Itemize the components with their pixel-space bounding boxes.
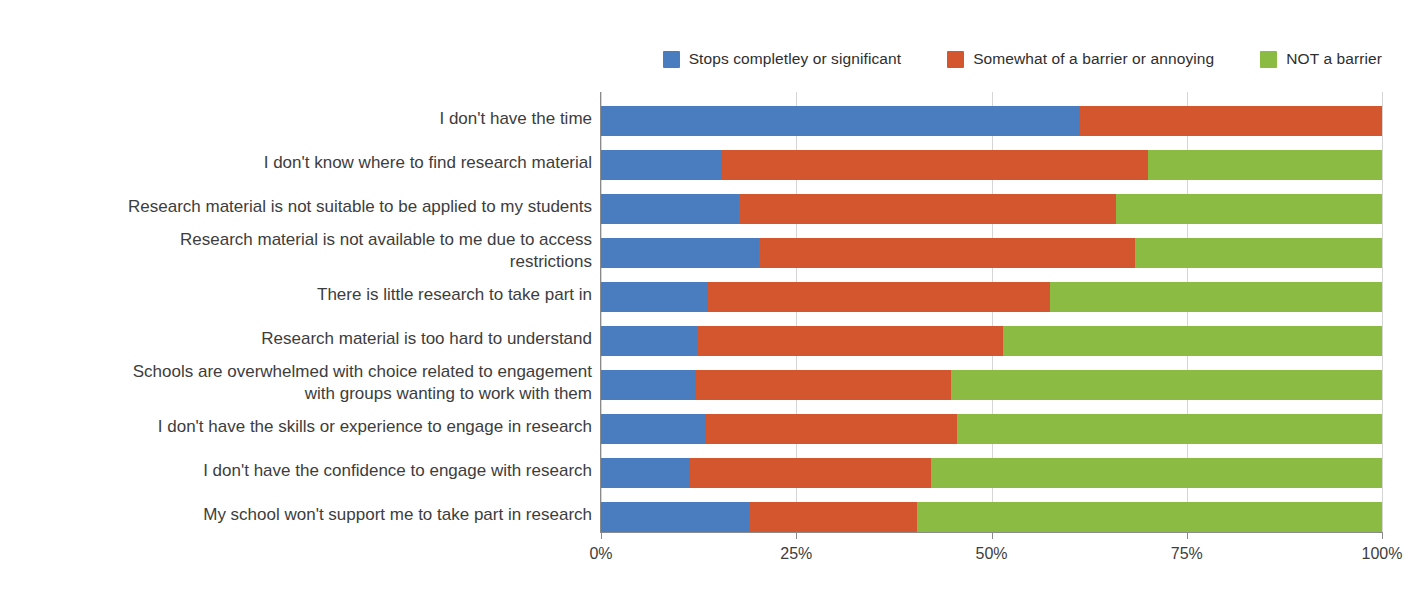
bar-segment[interactable]: [601, 238, 759, 268]
bar-segment[interactable]: [601, 502, 750, 532]
bar-segment[interactable]: [706, 414, 957, 444]
category-label-line: My school won't support me to take part …: [0, 504, 592, 526]
legend-item-label: Somewhat of a barrier or annoying: [973, 50, 1214, 68]
x-axis-tick-label: 75%: [1147, 545, 1227, 563]
chart-legend: Stops completley or significantSomewhat …: [0, 50, 1418, 68]
bar-row[interactable]: [601, 194, 1382, 224]
category-label-line: There is little research to take part in: [0, 284, 592, 306]
category-label-line: I don't have the skills or experience to…: [0, 416, 592, 438]
bar-segment[interactable]: [697, 326, 1003, 356]
bar-segment[interactable]: [601, 414, 706, 444]
x-axis-tick: [1382, 532, 1383, 539]
legend-swatch-icon: [663, 51, 680, 68]
bar-segment[interactable]: [690, 458, 931, 488]
category-label-line: I don't have the time: [0, 108, 592, 130]
bar-rows: [601, 92, 1382, 532]
x-axis-tick: [1187, 532, 1188, 539]
bar-segment[interactable]: [601, 326, 697, 356]
bar-segment[interactable]: [601, 106, 1080, 136]
category-label: I don't have the time: [0, 108, 592, 130]
category-label-line: Schools are overwhelmed with choice rela…: [0, 361, 592, 383]
plot-area: [601, 92, 1382, 532]
bar-segment[interactable]: [1003, 326, 1382, 356]
x-axis-tick-label: 100%: [1342, 545, 1418, 563]
bar-segment[interactable]: [957, 414, 1382, 444]
category-label-line: Research material is not available to me…: [0, 229, 592, 251]
category-label-line: I don't know where to find research mate…: [0, 152, 592, 174]
gridline: [1382, 92, 1383, 532]
legend-item[interactable]: NOT a barrier: [1260, 50, 1382, 68]
x-axis-tick-label: 50%: [952, 545, 1032, 563]
category-label-line: I don't have the confidence to engage wi…: [0, 460, 592, 482]
bar-segment[interactable]: [951, 370, 1382, 400]
legend-item-label: NOT a barrier: [1286, 50, 1382, 68]
x-axis-tick: [992, 532, 993, 539]
bar-segment[interactable]: [759, 238, 1135, 268]
x-axis-tick: [796, 532, 797, 539]
bar-row[interactable]: [601, 238, 1382, 268]
category-label: Research material is not suitable to be …: [0, 196, 592, 218]
bar-row[interactable]: [601, 150, 1382, 180]
bar-row[interactable]: [601, 414, 1382, 444]
bar-segment[interactable]: [750, 502, 916, 532]
bar-segment[interactable]: [1116, 194, 1382, 224]
bar-segment[interactable]: [601, 282, 708, 312]
bar-row[interactable]: [601, 458, 1382, 488]
bar-segment[interactable]: [1050, 282, 1382, 312]
bar-row[interactable]: [601, 502, 1382, 532]
bar-row[interactable]: [601, 326, 1382, 356]
bar-segment[interactable]: [739, 194, 1115, 224]
bar-segment[interactable]: [1135, 238, 1382, 268]
category-axis-labels: I don't have the timeI don't know where …: [0, 92, 592, 532]
bar-segment[interactable]: [601, 150, 722, 180]
legend-item[interactable]: Somewhat of a barrier or annoying: [947, 50, 1214, 68]
legend-item[interactable]: Stops completley or significant: [663, 50, 901, 68]
bar-row[interactable]: [601, 282, 1382, 312]
bar-row[interactable]: [601, 370, 1382, 400]
bar-segment[interactable]: [601, 370, 696, 400]
bar-row[interactable]: [601, 106, 1382, 136]
stacked-bar-chart: Stops completley or significantSomewhat …: [0, 0, 1418, 611]
bar-segment[interactable]: [601, 458, 690, 488]
category-label: My school won't support me to take part …: [0, 504, 592, 526]
bar-segment[interactable]: [696, 370, 951, 400]
bar-segment[interactable]: [931, 458, 1382, 488]
category-label: Research material is too hard to underst…: [0, 328, 592, 350]
bar-segment[interactable]: [722, 150, 1148, 180]
legend-item-label: Stops completley or significant: [689, 50, 901, 68]
category-label: I don't have the skills or experience to…: [0, 416, 592, 438]
bar-segment[interactable]: [708, 282, 1050, 312]
category-label: Research material is not available to me…: [0, 229, 592, 273]
category-label-line: Research material is too hard to underst…: [0, 328, 592, 350]
category-label-line: Research material is not suitable to be …: [0, 196, 592, 218]
category-label-line: with groups wanting to work with them: [0, 383, 592, 405]
category-label: I don't have the confidence to engage wi…: [0, 460, 592, 482]
x-axis-tick-label: 0%: [561, 545, 641, 563]
bar-segment[interactable]: [601, 194, 739, 224]
legend-swatch-icon: [947, 51, 964, 68]
bar-segment[interactable]: [1148, 150, 1382, 180]
category-label: Schools are overwhelmed with choice rela…: [0, 361, 592, 405]
category-label-line: restrictions: [0, 251, 592, 273]
x-axis-tick-label: 25%: [756, 545, 836, 563]
x-axis-tick: [601, 532, 602, 539]
category-label: I don't know where to find research mate…: [0, 152, 592, 174]
category-label: There is little research to take part in: [0, 284, 592, 306]
bar-segment[interactable]: [1080, 106, 1382, 136]
legend-swatch-icon: [1260, 51, 1277, 68]
bar-segment[interactable]: [917, 502, 1382, 532]
